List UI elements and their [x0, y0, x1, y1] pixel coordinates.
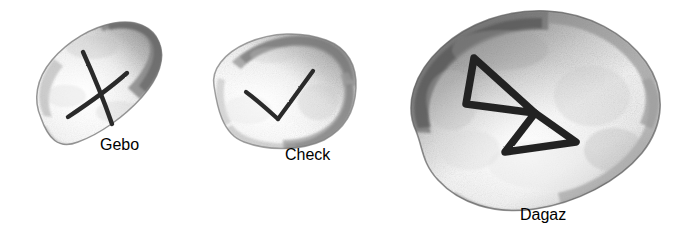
stone-middle-rune-label: Check — [285, 146, 331, 163]
stone-right-rune-label: Dagaz — [520, 206, 566, 223]
rune-stones-canvas: Gebo — [0, 0, 680, 225]
stone-left-rune-label: Gebo — [100, 136, 139, 153]
rune-stones-scene: Three hand-drawn rune stones — [0, 0, 680, 225]
